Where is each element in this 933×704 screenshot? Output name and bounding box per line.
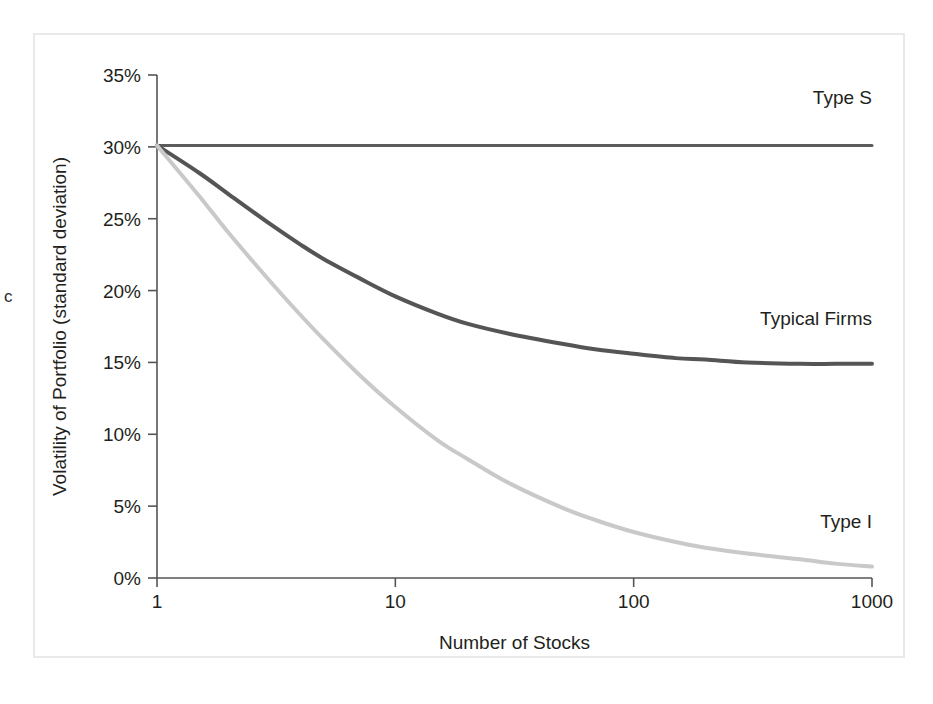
series-label-type-s: Type S [813, 87, 872, 108]
y-axis-tick-label: 25% [103, 209, 141, 230]
x-axis-tick-label: 10 [385, 591, 406, 612]
series-line-type-i [157, 145, 872, 566]
y-axis-tick-label: 0% [114, 568, 142, 589]
y-axis-title: Volatility of Portfolio (standard deviat… [49, 157, 70, 496]
series-label-type-i: Type I [820, 511, 872, 532]
y-axis-tick-label: 30% [103, 137, 141, 158]
y-axis-tick-label: 15% [103, 352, 141, 373]
x-axis-title: Number of Stocks [439, 632, 590, 653]
y-axis-tick-label: 10% [103, 424, 141, 445]
x-axis-tick-label: 100 [618, 591, 650, 612]
y-axis-tick-label: 35% [103, 65, 141, 86]
y-axis-tick-label: 20% [103, 281, 141, 302]
x-axis-tick-label: 1 [152, 591, 163, 612]
figure-root: c 0%5%10%15%20%25%30%35%1101001000Type S… [0, 0, 933, 704]
y-axis-tick-label: 5% [114, 496, 142, 517]
series-label-typical-firms: Typical Firms [760, 308, 872, 329]
x-axis-tick-label: 1000 [851, 591, 893, 612]
series-line-typical-firms [157, 145, 872, 364]
volatility-line-chart: 0%5%10%15%20%25%30%35%1101001000Type STy… [0, 0, 933, 704]
